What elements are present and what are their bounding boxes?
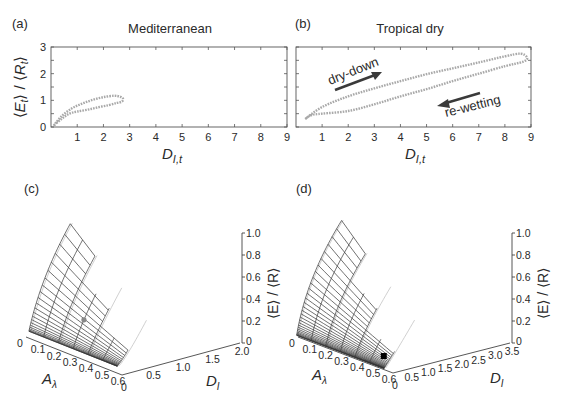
panel-d: (d) 00.10.20.30.40.50.600.51.01.52.02.53… bbox=[289, 181, 551, 391]
panel-b: (b) Tropical dry 123456789 dry-down re-w… bbox=[295, 16, 534, 165]
ticks-a: 1234567890123 bbox=[40, 41, 290, 143]
x-tick-label: 9 bbox=[284, 131, 290, 143]
z-tick-label: 0.8 bbox=[516, 249, 531, 261]
x-tick-label: 6 bbox=[450, 131, 456, 143]
panel-label-d: (d) bbox=[296, 181, 312, 196]
d-tick-label: 0 bbox=[121, 381, 127, 393]
a-tick-label: 0.1 bbox=[303, 343, 318, 355]
mesh-col bbox=[297, 220, 342, 335]
panel-title-b: Tropical dry bbox=[376, 21, 444, 36]
x-tick-label: 9 bbox=[528, 131, 534, 143]
loop-mediterranean bbox=[54, 96, 124, 126]
a-tick-label: 0.3 bbox=[63, 356, 78, 368]
axes-3d-d: 00.10.20.30.40.50.600.51.01.52.02.53.03.… bbox=[289, 227, 551, 391]
x-tick-label: 7 bbox=[231, 131, 237, 143]
d-tick-label: 1.5 bbox=[205, 353, 220, 365]
x-tick-label: 6 bbox=[205, 131, 211, 143]
x-tick-label: 7 bbox=[476, 131, 482, 143]
mesh-col bbox=[44, 240, 83, 337]
a-tick-label: 0.5 bbox=[366, 367, 381, 379]
z-tick-label: 0.8 bbox=[246, 249, 261, 261]
panel-label-a: (a) bbox=[12, 16, 28, 31]
a-axis-label: Aλ bbox=[311, 366, 327, 386]
z-tick-label: 1.0 bbox=[246, 227, 261, 239]
z-tick-label: 0.2 bbox=[516, 315, 531, 327]
z-tick-label: 0.4 bbox=[516, 293, 531, 305]
a-tick-label: 0.2 bbox=[47, 350, 62, 362]
x-axis-label-a: DI,t bbox=[162, 145, 183, 165]
dry-down-annotation: dry-down bbox=[326, 54, 382, 90]
z-axis-label: ⟨E⟩ / ⟨R⟩ bbox=[265, 268, 281, 319]
x-tick-label: 5 bbox=[179, 131, 185, 143]
panel-title-a: Mediterranean bbox=[128, 21, 212, 36]
x-tick-label: 4 bbox=[397, 131, 403, 143]
y-axis-label-a: ⟨Et⟩ / ⟨Rt⟩ bbox=[11, 56, 30, 119]
d-tick-label: 1.5 bbox=[438, 362, 453, 374]
re-wetting-annotation: re-wetting bbox=[437, 92, 502, 120]
axes-3d-c: 00.10.20.30.40.50.600.51.01.52.000.20.40… bbox=[17, 227, 281, 393]
z-tick-label: 0 bbox=[516, 335, 522, 347]
x-tick-label: 4 bbox=[153, 131, 159, 143]
panel-label-b: (b) bbox=[295, 16, 311, 31]
a-tick-label: 0.4 bbox=[79, 362, 94, 374]
a-tick-label: 0.1 bbox=[31, 343, 46, 355]
a-tick-label: 0.3 bbox=[334, 355, 349, 367]
z-tick-label: 0.4 bbox=[246, 293, 261, 305]
x-tick-label: 2 bbox=[100, 131, 106, 143]
d-tick-label: 1.0 bbox=[421, 366, 436, 378]
d-tick-label: 2.5 bbox=[471, 354, 486, 366]
x-tick-label: 2 bbox=[345, 131, 351, 143]
panel-c: (c) 00.10.20.30.40.50.600.51.01.52.000.2… bbox=[17, 181, 281, 393]
d-axis-label: DI bbox=[206, 372, 220, 392]
z-tick-label: 0.2 bbox=[246, 315, 261, 327]
x-tick-label: 5 bbox=[423, 131, 429, 143]
marker-dot bbox=[81, 317, 86, 322]
y-tick-label: 1 bbox=[40, 94, 46, 106]
x-tick-label: 3 bbox=[127, 131, 133, 143]
a-tick-label: 0.5 bbox=[95, 369, 110, 381]
panel-a: (a) Mediterranean 1234567890123 ⟨Et⟩ / ⟨… bbox=[11, 16, 290, 165]
panel-label-c: (c) bbox=[24, 181, 39, 196]
x-tick-label: 8 bbox=[258, 131, 264, 143]
d-tick-label: 3.0 bbox=[488, 349, 503, 361]
x-tick-label: 1 bbox=[319, 131, 325, 143]
z-tick-label: 1.0 bbox=[516, 227, 531, 239]
svg-text:DI,t: DI,t bbox=[405, 145, 426, 165]
svg-text:⟨Et⟩ / ⟨Rt⟩: ⟨Et⟩ / ⟨Rt⟩ bbox=[11, 56, 30, 119]
a-tick-label: 0 bbox=[289, 337, 295, 349]
a-tick-label: 0.4 bbox=[350, 361, 365, 373]
a-tick-label: 0.2 bbox=[318, 349, 333, 361]
z-tick-label: 0 bbox=[246, 335, 252, 347]
svg-text:DI,t: DI,t bbox=[162, 145, 183, 165]
d-tick-label: 0.5 bbox=[404, 371, 419, 383]
y-tick-label: 2 bbox=[40, 68, 46, 80]
plot-frame-a bbox=[51, 47, 287, 127]
y-tick-label: 3 bbox=[40, 41, 46, 53]
a-tick-label: 0 bbox=[17, 337, 23, 349]
z-axis-label: ⟨E⟩ / ⟨R⟩ bbox=[535, 268, 551, 319]
y-tick-label: 0 bbox=[40, 121, 46, 133]
marker-square bbox=[381, 353, 387, 359]
d-tick-label: 1.0 bbox=[176, 361, 191, 373]
x-axis-label-b: DI,t bbox=[405, 145, 426, 165]
x-tick-label: 3 bbox=[371, 131, 377, 143]
d-tick-label: 0.5 bbox=[146, 369, 161, 381]
z-tick-label: 0.6 bbox=[246, 271, 261, 283]
z-tick-label: 0.6 bbox=[516, 271, 531, 283]
x-tick-label: 1 bbox=[74, 131, 80, 143]
d-axis-label: DI bbox=[490, 369, 504, 389]
mesh-col bbox=[117, 350, 128, 366]
loop-tropical-dry bbox=[305, 54, 527, 119]
x-tick-label: 8 bbox=[502, 131, 508, 143]
figure: (a) Mediterranean 1234567890123 ⟨Et⟩ / ⟨… bbox=[0, 0, 570, 408]
d-tick-label: 0 bbox=[392, 379, 398, 391]
d-tick-label: 2.0 bbox=[455, 358, 470, 370]
a-axis-label: Aλ bbox=[41, 370, 57, 390]
